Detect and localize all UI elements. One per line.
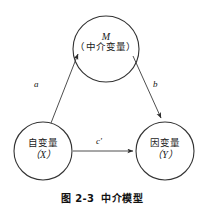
figure-caption: 图 2-3中介模型 <box>0 190 204 205</box>
node-circle-mediator <box>73 16 139 82</box>
mediation-model-figure: M （中介变量） 自变量 （X） 因变量 （Y） a b c' 图 2-3中介模… <box>0 0 204 217</box>
edge-arrow-b <box>133 56 161 118</box>
figure-caption-title: 中介模型 <box>101 193 143 204</box>
figure-caption-number: 图 2-3 <box>61 193 95 204</box>
diagram-canvas <box>0 0 204 217</box>
edge-arrow-a <box>51 54 78 123</box>
node-circle-independent <box>14 122 72 180</box>
node-circle-dependent <box>136 122 194 180</box>
